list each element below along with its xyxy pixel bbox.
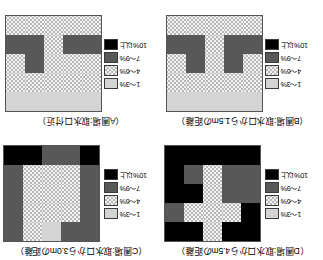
heatmap-cell <box>184 203 203 222</box>
heatmap-cell <box>82 73 101 92</box>
heatmap-grid-c <box>3 145 100 242</box>
heatmap-cell <box>243 54 262 73</box>
legend-row: 10%以上 <box>265 39 318 51</box>
heatmap-cell <box>224 92 243 111</box>
heatmap-cell <box>241 165 260 184</box>
legend-row: 10%以上 <box>265 169 318 181</box>
heatmap-cell <box>224 73 243 92</box>
legend-row: 4〜6% <box>265 65 318 77</box>
heatmap-cell <box>80 203 99 222</box>
heatmap-cell <box>224 35 243 54</box>
heatmap-cell <box>63 35 82 54</box>
heatmap-cell <box>82 16 101 35</box>
heatmap-cell <box>184 222 203 241</box>
heatmap-cell <box>61 146 80 165</box>
heatmap-cell <box>44 35 63 54</box>
heatmap-cell <box>63 16 82 35</box>
heatmap-cell <box>205 16 224 35</box>
heatmap-cell <box>167 92 186 111</box>
heatmap-cell <box>44 73 63 92</box>
heatmap-cell <box>4 203 23 222</box>
legend-row: 1〜3% <box>265 78 318 90</box>
heatmap-cell <box>165 165 184 184</box>
heatmap-cell <box>25 35 44 54</box>
legend-d: 1〜3%4〜6%7〜9%10%以上 <box>265 169 318 220</box>
heatmap-cell <box>184 184 203 203</box>
legend-swatch-dark-gray <box>104 183 118 194</box>
legend-row: 4〜6% <box>265 195 318 207</box>
heatmap-cell <box>186 92 205 111</box>
heatmap-grid-d <box>164 145 261 242</box>
legend-row: 10%以上 <box>104 169 157 181</box>
heatmap-cell <box>6 35 25 54</box>
legend-swatch-dark-gray <box>265 183 279 194</box>
panel-d: （D圃場:取水口から4.5mの距離） 1〜3%4〜6%7〜9%10%以上 <box>162 130 323 260</box>
panel-b: （B圃場:取水口から1.5mの距離） 1〜3%4〜6%7〜9%10%以上 <box>162 0 323 130</box>
heatmap-cell <box>184 146 203 165</box>
heatmap-cell <box>23 146 42 165</box>
legend-swatch-black <box>265 170 279 181</box>
heatmap-cell <box>44 92 63 111</box>
legend-swatch-light-gray <box>104 209 118 220</box>
heatmap-cell <box>42 203 61 222</box>
heatmap-cell <box>42 184 61 203</box>
heatmap-cell <box>23 222 42 241</box>
heatmap-cell <box>205 92 224 111</box>
legend-row: 1〜3% <box>104 208 157 220</box>
legend-label: 4〜6% <box>120 195 140 207</box>
heatmap-grid-a <box>5 15 102 112</box>
heatmap-cell <box>4 222 23 241</box>
figure-root: （D圃場:取水口から4.5mの距離） 1〜3%4〜6%7〜9%10%以上 （C圃… <box>0 0 323 260</box>
heatmap-cell <box>167 35 186 54</box>
heatmap-cell <box>42 146 61 165</box>
legend-row: 7〜9% <box>265 52 318 64</box>
heatmap-cell <box>222 203 241 222</box>
legend-row: 4〜6% <box>104 195 157 207</box>
legend-swatch-light-gray <box>265 209 279 220</box>
legend-label: 1〜3% <box>281 208 301 220</box>
legend-row: 4〜6% <box>104 65 157 77</box>
legend-label: 4〜6% <box>120 65 140 77</box>
panel-c: （C圃場:取水口から3.0mの距離） 1〜3%4〜6%7〜9%10%以上 <box>0 130 162 260</box>
heatmap-cell <box>205 54 224 73</box>
heatmap-cell <box>80 146 99 165</box>
heatmap-cell <box>165 222 184 241</box>
heatmap-cell <box>203 184 222 203</box>
heatmap-cell <box>61 165 80 184</box>
legend-swatch-light-gray <box>104 79 118 90</box>
heatmap-cell <box>42 222 61 241</box>
legend-label: 10%以上 <box>281 169 308 181</box>
heatmap-cell <box>184 165 203 184</box>
heatmap-cell <box>222 222 241 241</box>
heatmap-cell <box>186 54 205 73</box>
legend-c: 1〜3%4〜6%7〜9%10%以上 <box>104 169 157 220</box>
heatmap-cell <box>80 184 99 203</box>
legend-swatch-light-gray <box>265 79 279 90</box>
panel-b-title: （B圃場:取水口から1.5mの距離） <box>162 115 323 127</box>
heatmap-cell <box>25 73 44 92</box>
heatmap-cell <box>23 165 42 184</box>
heatmap-cell <box>224 54 243 73</box>
legend-label: 7〜9% <box>120 52 140 64</box>
legend-row: 1〜3% <box>104 78 157 90</box>
heatmap-cell <box>4 146 23 165</box>
legend-b: 1〜3%4〜6%7〜9%10%以上 <box>265 39 318 90</box>
heatmap-cell <box>6 16 25 35</box>
legend-label: 1〜3% <box>120 208 140 220</box>
heatmap-cell <box>165 203 184 222</box>
legend-swatch-black <box>265 40 279 51</box>
legend-label: 10%以上 <box>120 169 147 181</box>
legend-label: 1〜3% <box>281 78 301 90</box>
heatmap-cell <box>186 35 205 54</box>
legend-label: 7〜9% <box>281 182 301 194</box>
heatmap-cell <box>63 73 82 92</box>
panel-a: （A圃場:取水口付近） 1〜3%4〜6%7〜9%10%以上 <box>0 0 162 130</box>
heatmap-grid-b <box>166 15 263 112</box>
heatmap-cell <box>186 16 205 35</box>
legend-swatch-checkered <box>265 196 279 207</box>
legend-a: 1〜3%4〜6%7〜9%10%以上 <box>104 39 157 90</box>
heatmap-cell <box>205 35 224 54</box>
panel-d-title: （D圃場:取水口から4.5mの距離） <box>162 245 323 257</box>
heatmap-cell <box>42 165 61 184</box>
heatmap-cell <box>243 16 262 35</box>
